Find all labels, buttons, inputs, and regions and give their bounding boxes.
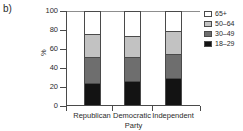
bar-segment — [166, 55, 181, 79]
bar-democratic — [124, 11, 141, 106]
legend-item: 18–29 — [204, 40, 234, 47]
y-tick — [60, 49, 66, 50]
bar-segment — [166, 32, 181, 54]
bar-segment — [125, 37, 140, 57]
legend-label: 65+ — [215, 10, 227, 17]
legend-swatch-icon — [204, 41, 212, 47]
bar-independent — [165, 11, 182, 106]
y-tick-label: 20 — [36, 83, 58, 91]
x-tick — [200, 106, 201, 111]
bar-segment — [85, 84, 100, 105]
y-tick-label: 80 — [36, 26, 58, 34]
legend-swatch-icon — [204, 21, 212, 27]
x-axis-title: Party — [0, 122, 243, 130]
bar-segment — [125, 12, 140, 37]
legend-item: 65+ — [204, 10, 234, 17]
x-tick-label: Independent — [143, 112, 203, 120]
legend-swatch-icon — [204, 11, 212, 17]
legend-label: 30–49 — [215, 30, 234, 37]
legend-item: 50–64 — [204, 20, 234, 27]
bar-segment — [85, 58, 100, 84]
legend-label: 50–64 — [215, 20, 234, 27]
y-tick — [60, 11, 66, 12]
y-tick-label: 40 — [36, 64, 58, 72]
bar-segment — [125, 82, 140, 105]
y-tick — [60, 30, 66, 31]
x-tick — [66, 106, 67, 111]
bar-segment — [85, 35, 100, 57]
bar-segment — [166, 79, 181, 105]
bar-segment — [125, 58, 140, 82]
legend: 65+50–6430–4918–29 — [204, 10, 234, 47]
y-tick-label: 100 — [36, 7, 58, 15]
bar-republican — [84, 11, 101, 106]
y-tick — [60, 87, 66, 88]
legend-item: 30–49 — [204, 30, 234, 37]
legend-label: 18–29 — [215, 40, 234, 47]
panel-label: b) — [3, 4, 12, 14]
y-tick — [60, 68, 66, 69]
y-tick-label: 0 — [36, 102, 58, 110]
figure-panel-b: b) 100806040200 % RepublicanDemocraticIn… — [0, 0, 243, 131]
legend-swatch-icon — [204, 31, 212, 37]
bar-segment — [85, 12, 100, 35]
bar-segment — [166, 12, 181, 32]
y-axis-title: % — [40, 49, 48, 56]
